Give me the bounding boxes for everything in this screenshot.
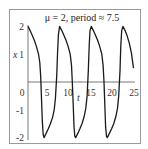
y-tick-neg2: -2 <box>16 133 24 143</box>
y-axis-label: x <box>12 49 18 60</box>
y-tick-2: 2 <box>19 22 24 32</box>
x-tick-5: 5 <box>45 88 50 98</box>
x-axis-label: t <box>77 92 80 103</box>
x-tick-20: 20 <box>107 88 117 98</box>
y-tick-1: 1 <box>19 50 24 60</box>
x-tick-10: 10 <box>63 88 73 98</box>
y-tick-labels: 2 1 -1 -2 <box>16 22 24 143</box>
van-der-pol-chart: μ = 2, period ≈ 7.5 2 1 -1 -2 0 5 10 15 … <box>0 0 148 149</box>
y-tick-neg1: -1 <box>16 106 24 116</box>
x-tick-25: 25 <box>129 88 139 98</box>
x-tick-0: 0 <box>20 88 25 98</box>
chart-title: μ = 2, period ≈ 7.5 <box>45 12 120 23</box>
